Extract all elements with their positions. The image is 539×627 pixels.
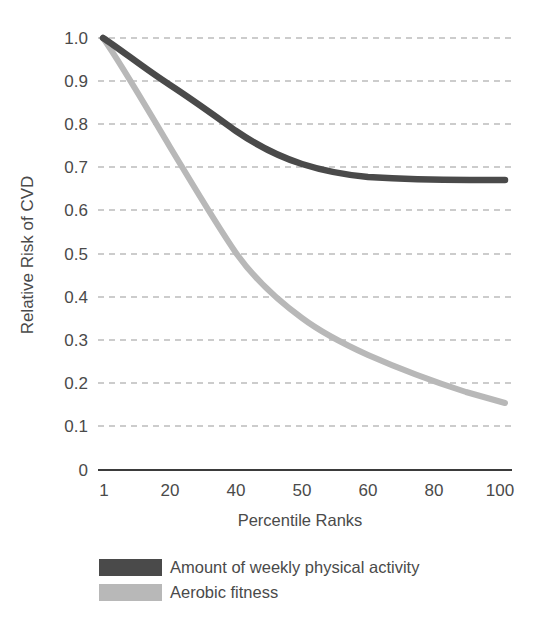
x-tick-label: 40	[227, 481, 246, 500]
legend-swatch-weekly-physical-activity	[99, 559, 162, 576]
y-tick-label: 0.7	[64, 158, 88, 177]
x-tick-label: 1	[99, 481, 108, 500]
chart-figure: 1.0 0.9 0.8 0.7 0.6 0.5 0.4 0.3 0.2 0.1 …	[0, 0, 539, 627]
series-line-weekly-physical-activity	[103, 38, 505, 180]
relative-risk-line-chart: 1.0 0.9 0.8 0.7 0.6 0.5 0.4 0.3 0.2 0.1 …	[0, 0, 539, 627]
legend-label-weekly-physical-activity: Amount of weekly physical activity	[170, 558, 420, 576]
series-line-aerobic-fitness	[103, 38, 505, 403]
x-tick-label: 60	[359, 481, 378, 500]
x-tick-label: 80	[425, 481, 444, 500]
x-tick-label: 20	[161, 481, 180, 500]
y-tick-label: 0.8	[64, 115, 88, 134]
legend-swatch-aerobic-fitness	[99, 584, 162, 601]
y-tick-label: 0.5	[64, 245, 88, 264]
y-tick-label: 1.0	[64, 29, 88, 48]
x-axis-title: Percentile Ranks	[238, 511, 363, 529]
y-tick-label: 0.3	[64, 331, 88, 350]
y-tick-label: 0.4	[64, 288, 88, 307]
chart-legend: Amount of weekly physical activity Aerob…	[99, 558, 420, 601]
x-tick-label: 50	[293, 481, 312, 500]
y-axis-tick-labels: 1.0 0.9 0.8 0.7 0.6 0.5 0.4 0.3 0.2 0.1 …	[64, 29, 88, 480]
x-axis-tick-labels: 1 20 40 50 60 80 100	[99, 481, 514, 500]
y-tick-label: 0	[79, 461, 88, 480]
y-tick-label: 0.1	[64, 417, 88, 436]
y-tick-label: 0.6	[64, 201, 88, 220]
x-tick-label: 100	[486, 481, 514, 500]
y-tick-label: 0.9	[64, 72, 88, 91]
y-axis-title: Relative Risk of CVD	[18, 176, 37, 335]
y-tick-label: 0.2	[64, 374, 88, 393]
gridlines	[98, 38, 511, 426]
legend-label-aerobic-fitness: Aerobic fitness	[170, 583, 278, 601]
